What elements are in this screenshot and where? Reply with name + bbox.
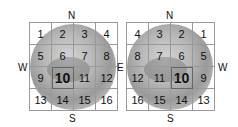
sector-cell: 2	[171, 23, 193, 45]
north-label: N	[166, 10, 173, 21]
left-moon-panel: 1 2 3 4 5 6 7 8 9 10 11 12 13 14 15 16 N…	[0, 0, 119, 127]
sector-cell: 4	[96, 23, 118, 45]
sector-cell: 9	[193, 67, 215, 89]
south-label: S	[69, 113, 76, 124]
west-label: W	[18, 62, 27, 73]
sector-cell: 1	[193, 23, 215, 45]
sector-cell: 12	[96, 67, 118, 89]
sector-cell: 3	[74, 23, 96, 45]
sector-cell: 14	[52, 89, 74, 111]
sector-cell: 16	[127, 89, 149, 111]
right-moon-panel: 4 3 2 1 8 7 6 5 12 11 10 9 16 15 14 13 N…	[119, 0, 238, 127]
sector-cell: 4	[127, 23, 149, 45]
sector-cell: 2	[52, 23, 74, 45]
sector-cell: 6	[52, 45, 74, 67]
sector-cell: 1	[30, 23, 52, 45]
sector-cell: 9	[30, 67, 52, 89]
sector-cell: 5	[30, 45, 52, 67]
sector-cell: 13	[193, 89, 215, 111]
sector-cell-highlighted: 10	[52, 67, 74, 89]
sector-cell: 12	[127, 67, 149, 89]
sector-cell: 5	[193, 45, 215, 67]
sector-cell: 13	[30, 89, 52, 111]
sector-cell: 7	[149, 45, 171, 67]
sector-cell-highlighted: 10	[171, 67, 193, 89]
sector-cell: 15	[74, 89, 96, 111]
sector-cell: 11	[74, 67, 96, 89]
west-label: W	[218, 62, 227, 73]
sector-grid: 4 3 2 1 8 7 6 5 12 11 10 9 16 15 14 13	[126, 22, 215, 111]
sector-cell: 8	[96, 45, 118, 67]
sector-cell: 11	[149, 67, 171, 89]
south-label: S	[167, 113, 174, 124]
sector-cell: 16	[96, 89, 118, 111]
sector-cell: 7	[74, 45, 96, 67]
sector-grid: 1 2 3 4 5 6 7 8 9 10 11 12 13 14 15 16	[29, 22, 118, 111]
sector-cell: 8	[127, 45, 149, 67]
north-label: N	[68, 10, 75, 21]
sector-cell: 6	[171, 45, 193, 67]
sector-cell: 3	[149, 23, 171, 45]
sector-cell: 14	[171, 89, 193, 111]
sector-cell: 15	[149, 89, 171, 111]
